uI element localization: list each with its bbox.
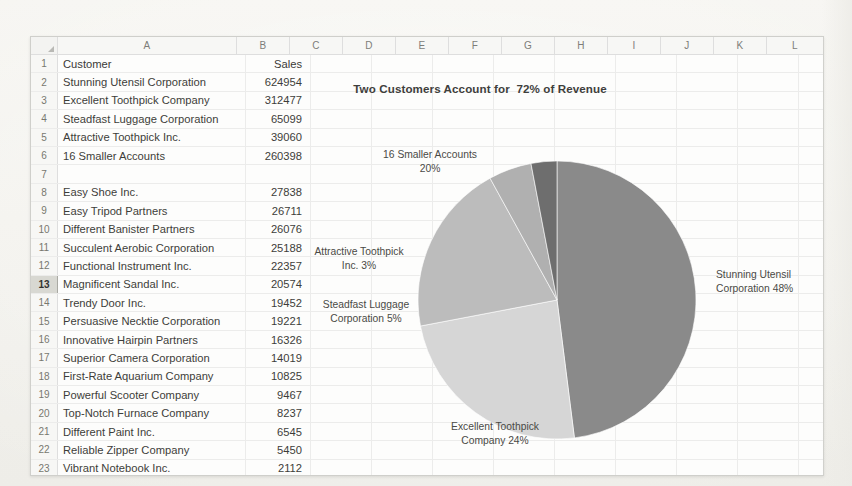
cell-empty[interactable]	[311, 349, 372, 366]
cell-empty[interactable]	[616, 460, 677, 476]
cell-empty[interactable]	[738, 404, 799, 421]
cell-empty[interactable]	[494, 276, 555, 293]
cell-empty[interactable]	[799, 386, 824, 403]
cell-empty[interactable]	[555, 294, 616, 311]
cell-empty[interactable]	[616, 184, 677, 201]
cell-empty[interactable]	[616, 404, 677, 421]
row-header-17[interactable]: 17	[31, 349, 58, 366]
cell-empty[interactable]	[799, 147, 824, 164]
cell-empty[interactable]	[738, 312, 799, 329]
cell-empty[interactable]	[372, 110, 433, 127]
cell-sales[interactable]: Sales	[246, 55, 311, 72]
cell-empty[interactable]	[555, 202, 616, 219]
cell-empty[interactable]	[494, 221, 555, 238]
table-row[interactable]: 18First-Rate Aquarium Company10825	[31, 368, 823, 386]
column-header-G[interactable]: G	[502, 37, 555, 54]
cell-empty[interactable]	[799, 55, 824, 72]
cell-sales[interactable]: 26076	[246, 221, 311, 238]
cell-empty[interactable]	[372, 147, 433, 164]
cell-empty[interactable]	[555, 129, 616, 146]
cell-empty[interactable]	[494, 404, 555, 421]
cell-empty[interactable]	[311, 276, 372, 293]
cell-sales[interactable]: 14019	[246, 349, 311, 366]
cell-customer[interactable]: First-Rate Aquarium Company	[58, 368, 246, 385]
cell-empty[interactable]	[555, 368, 616, 385]
cell-empty[interactable]	[677, 129, 738, 146]
cell-empty[interactable]	[677, 423, 738, 440]
cell-empty[interactable]	[372, 423, 433, 440]
cell-empty[interactable]	[311, 73, 372, 90]
row-header-11[interactable]: 11	[31, 239, 58, 256]
cell-empty[interactable]	[433, 147, 494, 164]
cell-empty[interactable]	[738, 294, 799, 311]
cell-empty[interactable]	[311, 202, 372, 219]
cell-empty[interactable]	[799, 92, 824, 109]
cell-empty[interactable]	[494, 147, 555, 164]
cell-empty[interactable]	[433, 221, 494, 238]
cell-empty[interactable]	[738, 221, 799, 238]
cell-empty[interactable]	[616, 110, 677, 127]
cell-empty[interactable]	[494, 312, 555, 329]
cell-sales[interactable]: 19452	[246, 294, 311, 311]
table-row[interactable]: 23Vibrant Notebook Inc.2112	[31, 460, 823, 476]
cell-empty[interactable]	[433, 73, 494, 90]
cell-empty[interactable]	[311, 55, 372, 72]
row-header-2[interactable]: 2	[31, 73, 58, 90]
row-header-8[interactable]: 8	[31, 184, 58, 201]
cell-empty[interactable]	[799, 110, 824, 127]
cell-empty[interactable]	[738, 349, 799, 366]
cell-empty[interactable]	[372, 441, 433, 458]
cell-customer[interactable]: Stunning Utensil Corporation	[58, 73, 246, 90]
cell-empty[interactable]	[494, 55, 555, 72]
table-row[interactable]: 11Succulent Aerobic Corporation25188	[31, 239, 823, 257]
cell-empty[interactable]	[433, 165, 494, 182]
column-header-C[interactable]: C	[290, 37, 343, 54]
table-row[interactable]: 16Innovative Hairpin Partners16326	[31, 331, 823, 349]
column-header-A[interactable]: A	[58, 37, 237, 54]
cell-empty[interactable]	[616, 294, 677, 311]
cell-empty[interactable]	[555, 276, 616, 293]
row-header-4[interactable]: 4	[31, 110, 58, 127]
cell-empty[interactable]	[494, 165, 555, 182]
cell-empty[interactable]	[799, 404, 824, 421]
cell-empty[interactable]	[738, 55, 799, 72]
cell-empty[interactable]	[311, 441, 372, 458]
cell-empty[interactable]	[494, 294, 555, 311]
cell-empty[interactable]	[372, 202, 433, 219]
cell-empty[interactable]	[799, 368, 824, 385]
row-header-10[interactable]: 10	[31, 221, 58, 238]
table-row[interactable]: 5Attractive Toothpick Inc.39060	[31, 129, 823, 147]
cell-empty[interactable]	[677, 386, 738, 403]
cell-empty[interactable]	[555, 257, 616, 274]
cell-empty[interactable]	[555, 239, 616, 256]
cell-customer[interactable]: Steadfast Luggage Corporation	[58, 110, 246, 127]
cell-sales[interactable]: 8237	[246, 404, 311, 421]
table-row[interactable]: 1CustomerSales	[31, 55, 823, 73]
cell-customer[interactable]	[58, 165, 246, 182]
cell-empty[interactable]	[433, 257, 494, 274]
cell-customer[interactable]: Customer	[58, 55, 246, 72]
cell-empty[interactable]	[311, 239, 372, 256]
cell-empty[interactable]	[677, 202, 738, 219]
cell-customer[interactable]: Different Paint Inc.	[58, 423, 246, 440]
cell-empty[interactable]	[433, 349, 494, 366]
table-row[interactable]: 3Excellent Toothpick Company312477	[31, 92, 823, 110]
cell-empty[interactable]	[311, 386, 372, 403]
cell-empty[interactable]	[799, 331, 824, 348]
table-row[interactable]: 7	[31, 165, 823, 183]
row-header-5[interactable]: 5	[31, 129, 58, 146]
cell-empty[interactable]	[555, 221, 616, 238]
cell-empty[interactable]	[616, 312, 677, 329]
row-header-15[interactable]: 15	[31, 312, 58, 329]
cell-empty[interactable]	[677, 331, 738, 348]
cell-empty[interactable]	[799, 73, 824, 90]
cell-empty[interactable]	[433, 312, 494, 329]
cell-sales[interactable]: 2112	[246, 460, 311, 476]
row-header-14[interactable]: 14	[31, 294, 58, 311]
table-row[interactable]: 9Easy Tripod Partners26711	[31, 202, 823, 220]
cell-empty[interactable]	[799, 276, 824, 293]
cell-sales[interactable]: 20574	[246, 276, 311, 293]
cell-sales[interactable]: 312477	[246, 92, 311, 109]
cell-empty[interactable]	[311, 147, 372, 164]
cell-empty[interactable]	[616, 165, 677, 182]
